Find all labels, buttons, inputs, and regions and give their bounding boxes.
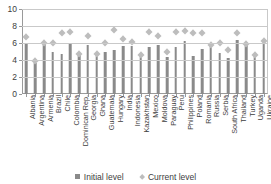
gridline <box>22 26 268 27</box>
bar-initial-level <box>139 56 142 94</box>
chart-category-group <box>84 9 93 94</box>
bar-initial-level <box>236 40 239 94</box>
marker-current-level <box>190 30 196 36</box>
marker-current-level <box>225 47 231 53</box>
x-axis-tick-label: Russia <box>213 95 220 117</box>
chart-category-group <box>198 9 207 94</box>
x-axis-labels: AlbaniaArgentinaArmeniaBrazilChileColomb… <box>22 95 268 157</box>
legend-label: Current level <box>148 173 196 182</box>
chart-category-group <box>250 9 259 94</box>
chart-category-group <box>101 9 110 94</box>
x-axis-tick-label: Thailand <box>240 95 247 123</box>
x-axis-tick-label: Turkey <box>249 95 256 117</box>
legend-label: Initial level <box>84 173 124 182</box>
chart-category-group <box>224 9 233 94</box>
chart-category-group <box>40 9 49 94</box>
x-axis-tick-label: Philippines <box>187 95 194 130</box>
marker-current-level <box>67 28 73 34</box>
chart-container: 0246810 AlbaniaArgentinaArmeniaBrazilChi… <box>0 0 271 184</box>
marker-current-level <box>76 50 82 56</box>
bar-initial-level <box>87 45 90 94</box>
y-axis-tick-label: 2 <box>12 73 17 82</box>
x-axis-tick-label: Moldova <box>161 95 168 122</box>
x-axis-tick-label: Indonesia <box>134 95 141 126</box>
bar-initial-level <box>183 41 186 94</box>
bar-initial-level <box>51 52 54 95</box>
chart-category-group <box>110 9 119 94</box>
y-axis-labels: 0246810 <box>0 9 20 94</box>
chart-category-group <box>119 9 128 94</box>
x-axis-tick-label: Uganda <box>257 95 264 120</box>
marker-current-level <box>85 32 91 38</box>
chart-category-group <box>57 9 66 94</box>
chart-category-group <box>136 9 145 94</box>
x-axis-tick-label: Armenia <box>47 95 54 122</box>
x-axis-tick-label: Albania <box>29 95 36 119</box>
marker-current-level <box>146 29 152 35</box>
chart-category-group <box>171 9 180 94</box>
x-axis-tick-label: Paraguay <box>170 95 177 126</box>
chart-category-group <box>242 9 251 94</box>
chart-category-group <box>154 9 163 94</box>
y-axis-tick-label: 0 <box>12 90 17 99</box>
marker-current-level <box>23 33 29 39</box>
bar-initial-level <box>174 47 177 94</box>
bar-initial-level <box>201 49 204 94</box>
x-axis-tick-label: Peru <box>178 95 185 110</box>
y-axis-tick <box>19 9 22 10</box>
x-axis-tick-label: India <box>126 95 133 111</box>
bar-initial-level <box>104 52 107 95</box>
legend-item-initial-level[interactable]: Initial level <box>75 173 124 182</box>
x-axis-tick-label: Guatemala <box>108 95 115 130</box>
legend-item-current-level[interactable]: Current level <box>140 173 197 182</box>
chart-category-group <box>215 9 224 94</box>
y-axis-tick <box>19 43 22 44</box>
marker-current-level <box>172 29 178 35</box>
bar-initial-level <box>262 40 265 94</box>
y-axis-tick-label: 8 <box>12 22 17 31</box>
chart-category-group <box>180 9 189 94</box>
marker-current-level <box>155 32 161 38</box>
y-axis-tick <box>19 60 22 61</box>
y-axis-tick <box>19 26 22 27</box>
chart-category-group <box>66 9 75 94</box>
x-axis-tick-label: Hungary <box>117 95 124 122</box>
x-axis-tick-label: Mexico <box>152 95 159 118</box>
x-axis-tick-label: Romania <box>205 95 212 124</box>
bar-initial-level <box>69 44 72 94</box>
legend-diamond-icon <box>139 174 145 180</box>
bar-initial-level <box>192 56 195 94</box>
bar-initial-level <box>25 43 28 94</box>
marker-current-level <box>199 30 205 36</box>
chart-category-group <box>163 9 172 94</box>
bar-initial-level <box>245 45 248 94</box>
x-axis-tick-label: Colombia <box>73 95 80 125</box>
chart-category-group <box>259 9 268 94</box>
marker-current-level <box>111 26 117 32</box>
bar-initial-level <box>157 45 160 94</box>
y-axis-tick-label: 10 <box>8 5 17 14</box>
x-axis-tick-label: Poland <box>196 95 203 117</box>
bar-initial-level <box>210 45 213 94</box>
bar-initial-level <box>122 46 125 94</box>
plot-area <box>22 9 268 94</box>
marker-current-level <box>58 30 64 36</box>
chart-category-group <box>189 9 198 94</box>
chart-category-group <box>75 9 84 94</box>
gridline <box>22 9 268 10</box>
x-axis-tick-label: Ukraine <box>266 95 271 120</box>
x-axis-tick-label: Kazakhstan <box>143 95 150 133</box>
chart-category-group <box>22 9 31 94</box>
bar-initial-level <box>113 50 116 94</box>
y-axis-tick <box>19 77 22 78</box>
x-axis-tick-label: Chile <box>64 95 71 111</box>
marker-current-level <box>120 36 126 42</box>
bar-initial-level <box>166 57 169 94</box>
y-axis-tick-label: 4 <box>12 56 17 65</box>
x-axis-tick-label: Georgia <box>90 95 97 121</box>
marker-current-level <box>164 48 170 54</box>
chart-category-group <box>92 9 101 94</box>
series-layer <box>22 9 268 94</box>
bar-initial-level <box>43 44 46 94</box>
chart-category-group <box>48 9 57 94</box>
